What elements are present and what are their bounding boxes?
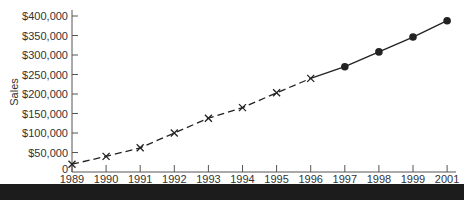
y-tick-label: $150,000 [22,108,68,120]
dot-marker [341,63,349,71]
dot-marker [409,33,417,41]
y-axis: 0$50,000$100,000$150,000$200,000$250,000… [22,10,78,175]
y-tick-label: $50,000 [28,147,68,159]
y-tick-label: $300,000 [22,49,68,61]
x-axis: 1989199019911992199319941995199619971998… [60,165,460,185]
series-actual [69,75,315,168]
dot-marker [443,17,451,25]
footer-bar [0,184,464,200]
x-marker [171,130,178,137]
y-tick-label: $100,000 [22,127,68,139]
y-axis-title: Sales [8,78,20,106]
y-tick-label: $350,000 [22,30,68,42]
series-layer [69,17,451,168]
series-projected [311,17,451,79]
sales-line-chart: 0$50,000$100,000$150,000$200,000$250,000… [0,0,464,200]
y-tick-label: $400,000 [22,10,68,22]
x-marker [239,104,246,111]
y-tick-label: $250,000 [22,69,68,81]
x-marker [273,89,280,96]
y-tick-label: $200,000 [22,88,68,100]
dot-marker [375,48,383,56]
x-marker [205,115,212,122]
